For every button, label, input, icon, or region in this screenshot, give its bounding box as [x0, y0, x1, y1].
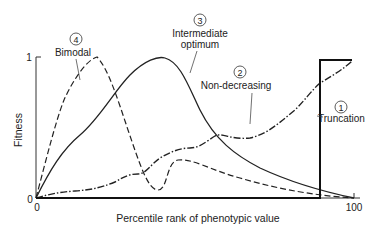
annotation-number-2: 2 — [237, 68, 242, 78]
annotation-bimodal: 4 Bimodal — [55, 33, 91, 80]
annotation-intermediate-optimum: 3 Intermediate optimum — [172, 14, 228, 73]
leader-line-3 — [190, 51, 197, 73]
axes — [36, 57, 360, 198]
x-axis-label: Percentile rank of phenotypic value — [116, 212, 280, 224]
annotation-label-bimodal: Bimodal — [55, 47, 91, 58]
annotation-number-4: 4 — [73, 35, 78, 45]
annotation-truncation: 1 Truncation — [317, 101, 365, 124]
x-tick-label-left: 0 — [34, 202, 40, 213]
annotation-label-intermediate: Intermediate — [172, 28, 228, 39]
annotation-number-1: 1 — [338, 103, 343, 113]
annotation-label-non-decreasing: Non-decreasing — [201, 80, 272, 91]
annotation-number-3: 3 — [197, 16, 202, 26]
y-tick-label-bottom: 0 — [27, 194, 33, 205]
y-axis-label: Fitness — [12, 113, 24, 147]
annotation-label-truncation: Truncation — [318, 113, 365, 124]
y-tick-label-top: 1 — [26, 52, 32, 63]
fitness-chart: 1 0 0 100 Percentile rank of phenotypic … — [0, 0, 389, 234]
curve-non-decreasing — [36, 61, 352, 198]
annotation-label-optimum: optimum — [181, 39, 219, 50]
curve-bimodal — [36, 57, 354, 198]
curve-intermediate-optimum — [36, 58, 354, 198]
curve-truncation — [36, 60, 352, 198]
leader-line-2 — [250, 93, 252, 124]
x-tick-label-right: 100 — [346, 202, 363, 213]
annotation-non-decreasing: 2 Non-decreasing — [201, 66, 272, 124]
